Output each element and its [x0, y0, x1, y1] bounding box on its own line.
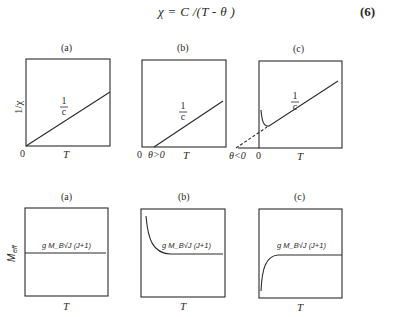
bottom-panel-a-frame: [25, 208, 108, 296]
bottom-panel-c-label: (c): [294, 191, 305, 203]
top-panel-c-theta: θ<0: [229, 150, 246, 161]
fraction-numerator: 1: [293, 90, 298, 101]
bottom-panel-a-line-label: g M_B√J (J+1): [42, 241, 91, 250]
top-panel-a-origin: 0: [20, 148, 25, 159]
bottom-panel-c-line-label: g M_B√J (J+1): [277, 241, 326, 250]
top-panel-c-x-label: T: [297, 150, 304, 162]
top-panel-c-extrapolation: [236, 127, 267, 148]
top-panel-c-frame: [259, 61, 342, 148]
top-panel-c-label: (c): [293, 43, 304, 55]
top-y-axis-label: 1/χ: [12, 100, 24, 114]
top-panel-a: [26, 59, 110, 146]
bottom-panel-b-line-label: g M_B√J (J+1): [162, 241, 211, 250]
bottom-panel-c-curve: [261, 255, 342, 291]
top-panel-b-x-label: T: [183, 149, 190, 161]
top-panel-b-origin: 0: [137, 149, 142, 160]
bottom-panel-b-x-label: T: [180, 300, 187, 312]
bottom-panel-c-x-label: T: [297, 301, 304, 313]
y-axis-main: M: [6, 253, 17, 262]
top-panel-c-curve-label: 1 c: [291, 90, 299, 112]
top-panel-b-curve-label: 1 c: [179, 100, 187, 122]
top-panel-c-curve: [261, 81, 338, 126]
y-axis-subscript: eff: [11, 244, 18, 253]
top-panel-a-frame: [26, 59, 110, 146]
top-panel-a-line: [26, 92, 110, 146]
fraction-numerator: 1: [181, 100, 186, 111]
bottom-panel-a-x-label: T: [63, 300, 70, 312]
top-panel-a-curve-label: 1 c: [60, 95, 68, 117]
bottom-panel-c: [259, 209, 342, 298]
top-panel-c-origin: 0: [256, 150, 261, 161]
fraction-denominator: c: [293, 101, 298, 112]
susceptibility-diagram: (a) (b) (c) 1/χ 1 c 1 c 1 c 0 T 0 θ>0 T …: [0, 0, 394, 317]
bottom-y-axis-label: M eff: [6, 244, 18, 262]
fraction-denominator: c: [181, 111, 186, 122]
bottom-panel-a-label: (a): [61, 191, 72, 203]
fraction-numerator: 1: [62, 95, 67, 106]
fraction-denominator: c: [62, 106, 67, 117]
bottom-panel-a: [25, 208, 108, 296]
top-panel-b-line: [154, 101, 223, 147]
bottom-panel-b-frame: [141, 209, 225, 297]
bottom-panel-b: [141, 209, 225, 297]
top-panel-c: [236, 61, 342, 148]
top-panel-a-label: (a): [61, 42, 72, 54]
top-panel-b-label: (b): [177, 42, 189, 54]
bottom-panel-b-label: (b): [178, 191, 190, 203]
bottom-panel-c-frame: [259, 209, 342, 298]
top-panel-a-x-label: T: [63, 148, 70, 160]
top-panel-b-theta: θ>0: [148, 149, 165, 160]
